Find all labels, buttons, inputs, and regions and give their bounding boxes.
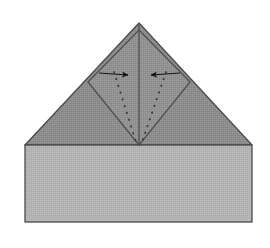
origami-diagram: Origami fold step diagram Paper folded i…	[0, 0, 270, 248]
lower-rectangle-band	[25, 145, 252, 222]
origami-figure-canvas: Origami fold step diagram Paper folded i…	[0, 0, 270, 248]
